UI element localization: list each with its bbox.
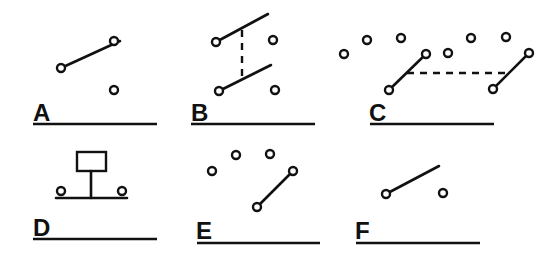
panel-e: E <box>196 150 320 244</box>
terminal <box>57 187 65 195</box>
terminal-contact-1 <box>110 37 118 45</box>
terminal <box>397 34 405 42</box>
terminal-contact <box>439 189 447 197</box>
panel-f: F <box>355 166 480 244</box>
switch-blade <box>386 166 439 194</box>
switch-blade-lower <box>219 65 271 91</box>
panel-b: B <box>191 14 315 126</box>
terminal <box>212 38 220 46</box>
terminal <box>422 50 430 58</box>
terminal-common <box>253 203 261 211</box>
switch-blade-upper <box>216 14 268 42</box>
terminal-common-right <box>489 85 497 93</box>
terminal <box>269 36 277 44</box>
terminal <box>208 167 216 175</box>
switch-symbols-diagram: A B C D <box>0 0 560 255</box>
terminal <box>232 151 240 159</box>
panel-label-d: D <box>33 214 50 241</box>
terminal <box>118 187 126 195</box>
panel-label-b: B <box>191 99 208 126</box>
terminal <box>340 50 348 58</box>
switch-blade <box>257 171 293 207</box>
terminal <box>467 34 475 42</box>
panel-label-c: C <box>369 99 386 126</box>
terminal <box>289 167 297 175</box>
terminal <box>525 49 533 57</box>
terminal-contact-2 <box>110 86 118 94</box>
switch-blade-right <box>493 53 529 89</box>
panel-c: C <box>340 33 533 126</box>
panel-label-f: F <box>355 217 370 244</box>
push-button <box>77 152 106 171</box>
panel-label-a: A <box>33 99 50 126</box>
terminal <box>363 36 371 44</box>
panel-a: A <box>33 37 157 126</box>
terminal <box>502 33 510 41</box>
terminal-common <box>57 64 65 72</box>
terminal-common <box>382 190 390 198</box>
terminal <box>266 150 274 158</box>
terminal <box>444 49 452 57</box>
terminal <box>271 86 279 94</box>
panel-label-e: E <box>196 217 212 244</box>
terminal-common-left <box>385 86 393 94</box>
terminal <box>215 87 223 95</box>
panel-d: D <box>33 152 157 241</box>
